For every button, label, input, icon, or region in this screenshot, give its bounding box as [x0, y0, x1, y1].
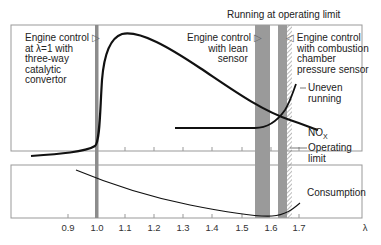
annotation-ccp-line4: pressure sensor	[286, 65, 369, 76]
annotation-combustion-sensor: ◁ Engine control with combustion chamber…	[286, 33, 369, 75]
arrow-left-icon: ◁	[286, 32, 294, 43]
annotation-ccp-line3: chamber	[286, 54, 369, 65]
x-tick-label: 1.4	[205, 222, 218, 233]
chart-title: Running at operating limit	[227, 10, 340, 21]
annotation-lean-sensor: Engine control ▷ with lean sensor	[187, 33, 262, 65]
annotation-lambda1-line1: Engine control	[25, 32, 89, 43]
label-uneven-line2: running	[308, 94, 342, 105]
label-nox-text: NO	[308, 127, 323, 138]
label-nox-sub: X	[323, 133, 328, 140]
annotation-ccp-line1: Engine control	[297, 32, 361, 43]
upper-axis-ticks	[125, 147, 299, 151]
label-uneven-running: Uneven running	[308, 83, 342, 104]
label-consumption: Consumption	[307, 188, 366, 199]
arrow-right-icon: ▷	[254, 32, 262, 43]
x-tick-label: 1.6	[264, 222, 277, 233]
label-oplimit-line2: limit	[308, 154, 352, 165]
x-tick-label: 1.5	[235, 222, 248, 233]
annotation-lambda1-line3: three-way	[25, 54, 100, 65]
x-tick-label: 1.7	[292, 222, 305, 233]
x-tick-label: 1.2	[147, 222, 160, 233]
arrow-right-icon: ▷	[92, 32, 100, 43]
annotation-lean-line1: Engine control	[187, 32, 251, 43]
label-nox: NOX	[308, 128, 328, 143]
x-axis-label: λ	[363, 222, 368, 233]
label-operating-limit: Operating limit	[308, 143, 352, 164]
label-uneven-line1: Uneven	[308, 83, 342, 94]
annotation-lean-line3: sensor	[187, 54, 262, 65]
x-tick-label: 1.3	[176, 222, 189, 233]
annotation-lambda1-line5: convertor	[25, 75, 100, 86]
label-oplimit-line1: Operating	[308, 143, 352, 154]
annotation-lambda1: Engine control ▷ at λ=1 with three-way c…	[25, 33, 100, 86]
x-tick-label: 1.1	[118, 222, 131, 233]
x-tick-label: 0.9	[61, 222, 74, 233]
x-tick-label: 1.0	[90, 222, 103, 233]
